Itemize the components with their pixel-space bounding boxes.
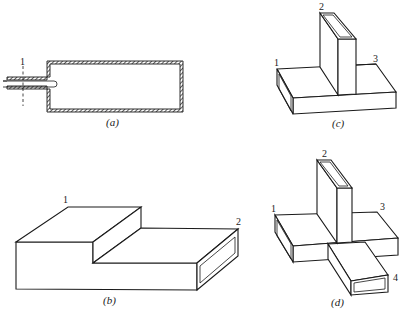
caption-d: (d) [331, 296, 344, 309]
port-label-1: 1 [274, 57, 279, 68]
port-label-2: 2 [236, 216, 241, 227]
port-label-3: 3 [380, 201, 385, 212]
caption-a: (a) [106, 116, 119, 129]
coax-outer-top [7, 77, 47, 80]
figure-canvas: 1 (a) 1 2 (b) 2 1 [0, 0, 409, 316]
panel-d-magic-tee: 2 1 3 4 (d) [271, 148, 398, 309]
port-label-1: 1 [63, 194, 68, 205]
tower-front-face [338, 39, 356, 95]
coax-outer-bottom [7, 86, 47, 89]
caption-c: (c) [332, 117, 345, 130]
panel-b-step: 1 2 (b) [16, 194, 241, 307]
caption-b: (b) [103, 294, 116, 307]
port-label-2: 2 [319, 1, 324, 12]
panel-a-cavity: 1 (a) [3, 56, 183, 129]
port-label-1: 1 [271, 203, 276, 214]
panel-c-tee: 2 1 3 (c) [274, 1, 396, 130]
port-label-1: 1 [20, 56, 25, 67]
port-label-2: 2 [322, 148, 327, 159]
cavity-wall [47, 61, 183, 112]
port-label-3: 3 [373, 53, 378, 64]
tower-front-face [337, 188, 352, 243]
port-label-4: 4 [393, 272, 398, 283]
